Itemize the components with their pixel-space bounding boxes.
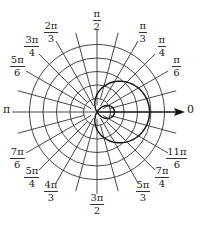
angle-label-numerator: 5π <box>136 180 151 192</box>
angle-label-denominator: 6 <box>10 159 25 170</box>
angle-label-denominator: 4 <box>158 47 167 58</box>
grid-spoke <box>100 33 118 99</box>
angle-label-numerator: π <box>172 55 181 67</box>
angle-label-denominator: 3 <box>136 192 151 203</box>
angle-label-2pi-3: 2π3 <box>44 21 59 44</box>
angle-label-numerator: π <box>158 35 167 47</box>
grid-spoke <box>18 115 84 133</box>
grid-spoke <box>76 125 94 191</box>
angle-label-numerator: 11π <box>166 147 187 159</box>
angle-label-pi-2: π2 <box>93 9 102 32</box>
grid-spoke <box>100 125 118 191</box>
angle-label-denominator: 4 <box>155 178 170 189</box>
angle-label-numerator: π <box>93 9 102 21</box>
angle-label-numerator: 4π <box>44 180 59 192</box>
angle-label-numerator: 3π <box>24 35 39 47</box>
angle-label-denominator: 3 <box>44 192 59 203</box>
angle-label-pi-3: π3 <box>139 21 148 44</box>
angle-label-denominator: 2 <box>93 21 102 32</box>
label-zero: 0 <box>187 103 194 116</box>
angle-label-3pi-4: 3π4 <box>24 35 39 58</box>
grid-spoke <box>107 54 155 102</box>
angle-label-numerator: π <box>139 21 148 33</box>
angle-label-denominator: 3 <box>44 33 59 44</box>
angle-label-pi-4: π4 <box>158 35 167 58</box>
angle-label-denominator: 4 <box>24 47 39 58</box>
angle-label-5pi-3: 5π3 <box>136 180 151 203</box>
grid-spoke <box>107 122 155 170</box>
angle-label-denominator: 6 <box>10 67 25 78</box>
angle-label-11pi-6: 11π6 <box>166 147 187 170</box>
angle-label-denominator: 3 <box>139 33 148 44</box>
angle-label-numerator: 7π <box>10 147 25 159</box>
angle-label-7pi-6: 7π6 <box>10 147 25 170</box>
angle-label-numerator: 2π <box>44 21 59 33</box>
angle-label-denominator: 2 <box>90 205 105 216</box>
angle-label-numerator: 5π <box>24 166 39 178</box>
angle-label-denominator: 6 <box>166 159 187 170</box>
angle-label-3pi-2: 3π2 <box>90 193 105 216</box>
angle-label-5pi-6: 5π6 <box>10 55 25 78</box>
label-pi: π <box>3 103 10 116</box>
grid-spoke <box>18 91 84 109</box>
angle-label-numerator: 3π <box>90 193 105 205</box>
grid-spoke <box>76 33 94 99</box>
angle-label-4pi-3: 4π3 <box>44 180 59 203</box>
angle-label-5pi-4: 5π4 <box>24 166 39 189</box>
grid-spoke <box>39 54 87 102</box>
angle-label-denominator: 4 <box>24 178 39 189</box>
angle-label-numerator: 5π <box>10 55 25 67</box>
angle-label-denominator: 6 <box>172 67 181 78</box>
grid-spoke <box>39 122 87 170</box>
angle-label-pi-6: π6 <box>172 55 181 78</box>
